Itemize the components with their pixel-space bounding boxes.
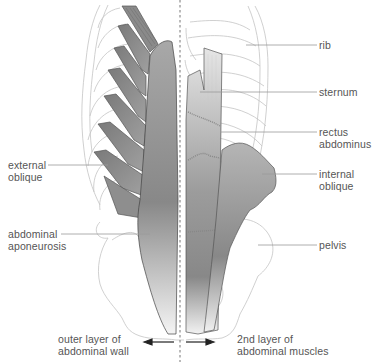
arrow-left-icon <box>144 339 152 345</box>
label-rib: rib <box>319 39 331 51</box>
label-internal-oblique: internal oblique <box>319 168 354 192</box>
label-abdominal-aponeurosis: abdominal aponeurosis <box>8 228 66 252</box>
label-pelvis: pelvis <box>319 239 346 251</box>
label-outer-layer: outer layer of abdominal wall <box>58 333 129 357</box>
label-second-layer: 2nd layer of abdominal muscles <box>237 333 329 357</box>
label-sternum: sternum <box>319 86 358 98</box>
label-rectus-abdominus: rectus abdominus <box>319 126 371 150</box>
leader-lines <box>48 45 317 245</box>
arrow-right-icon <box>206 339 214 345</box>
label-external-oblique: external oblique <box>8 159 46 183</box>
abdominal-muscles-diagram: rib sternum rectus abdominus internal ob… <box>0 0 375 362</box>
